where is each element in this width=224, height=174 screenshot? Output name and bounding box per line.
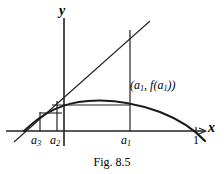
- figure-container: y x a3 a2 a1 1 (a1, f(a1)) Fig. 8.5: [0, 0, 224, 174]
- annotation-close-parens: )): [168, 78, 176, 92]
- tick-label-a3-sub: 3: [37, 139, 41, 148]
- axis-label-x: x: [208, 121, 215, 135]
- axis-label-y: y: [59, 4, 65, 18]
- tick-label-a2-sub: 2: [56, 139, 60, 148]
- tick-label-a3: a3: [31, 134, 41, 148]
- tick-label-a1: a1: [121, 134, 131, 148]
- point-annotation: (a1, f(a1)): [130, 79, 176, 93]
- tick-label-a1-sub: 1: [127, 139, 131, 148]
- tick-label-a2: a2: [50, 134, 60, 148]
- tick-label-one: 1: [193, 134, 199, 146]
- figure-caption: Fig. 8.5: [0, 155, 224, 170]
